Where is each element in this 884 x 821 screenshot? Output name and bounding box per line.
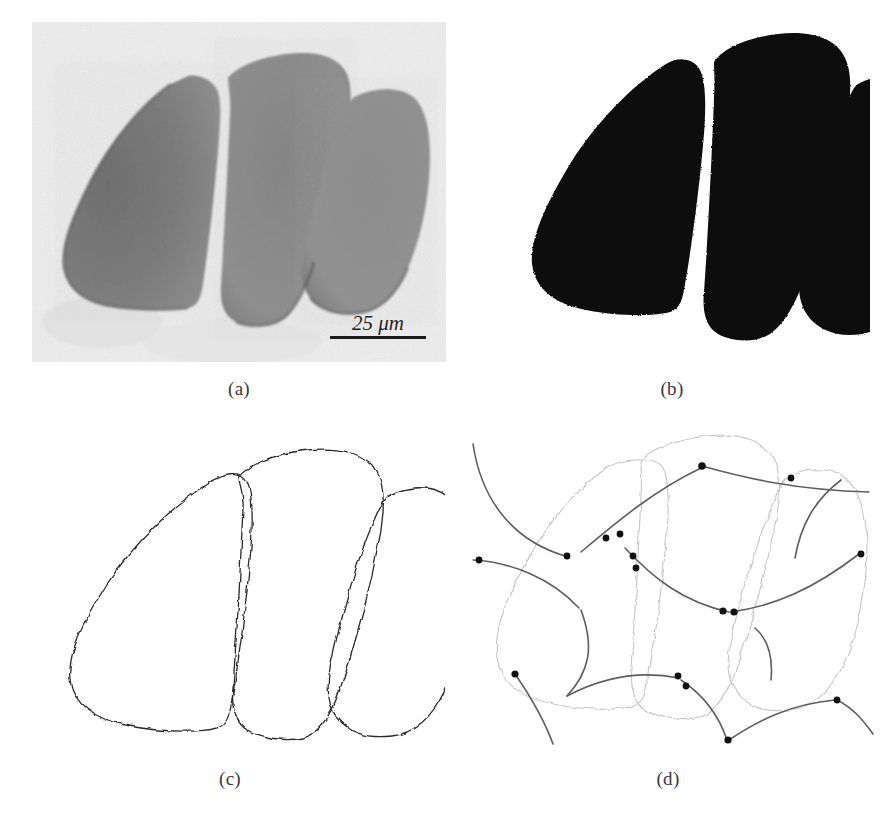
figure-container: 25 μm (a) (b) [0, 0, 884, 821]
panel-a-caption: (a) [179, 378, 299, 400]
marker-point [834, 697, 841, 704]
panel-c-image [25, 428, 445, 748]
marker-point [858, 551, 865, 558]
panel-d-caption: (d) [608, 768, 728, 790]
marker-point [719, 607, 726, 614]
marker-point [603, 535, 610, 542]
panel-d-arcs [455, 428, 875, 748]
marker-point [730, 608, 737, 615]
panel-c-caption: (c) [170, 768, 290, 790]
panel-a-micrograph: 25 μm [32, 22, 446, 362]
marker-point [724, 736, 731, 743]
panel-b-image [470, 22, 870, 362]
scale-bar: 25 μm [330, 312, 426, 339]
marker-point [476, 557, 483, 564]
panel-b-binary [470, 22, 870, 362]
panel-d-image [455, 428, 875, 748]
marker-point [511, 670, 518, 677]
panel-c-contours [25, 428, 445, 748]
marker-point [633, 565, 640, 572]
panel-b-caption: (b) [612, 378, 732, 400]
marker-point [698, 462, 706, 470]
marker-point [788, 475, 795, 482]
scale-bar-rule [330, 336, 426, 339]
marker-point [617, 531, 624, 538]
marker-point [630, 553, 637, 560]
marker-point [683, 683, 690, 690]
marker-point [675, 673, 682, 680]
scale-bar-label: 25 μm [330, 312, 426, 334]
marker-point [564, 553, 571, 560]
